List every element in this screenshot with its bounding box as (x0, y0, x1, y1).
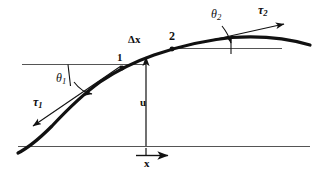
figure-canvas: 1 2 θ1 θ2 τ1 τ2 Δx u x (0, 0, 324, 173)
point-2-label: 2 (169, 30, 175, 42)
theta2-label: θ2 (211, 8, 221, 22)
theta2-subscript: 2 (217, 12, 221, 22)
tau2-label: τ2 (258, 4, 268, 18)
tau1-vector (33, 66, 121, 126)
u-label: u (140, 97, 146, 108)
x-label: x (144, 158, 150, 169)
theta1-subscript: 1 (62, 76, 66, 86)
tau1-label: τ1 (33, 96, 43, 110)
reference-lines-group (18, 49, 310, 147)
theta1-tick (68, 65, 71, 87)
tau1-subscript: 1 (38, 100, 42, 110)
velocity-profile-curve (18, 37, 310, 153)
point-2-marker (170, 47, 175, 52)
point-1-marker (120, 66, 125, 71)
delta-x-label: Δx (128, 34, 140, 45)
tau2-subscript: 2 (263, 8, 267, 18)
diagram-vector-layer (0, 0, 324, 173)
theta2-leader (222, 26, 231, 43)
point-1-label: 1 (117, 52, 123, 63)
theta1-label: θ1 (56, 72, 66, 86)
